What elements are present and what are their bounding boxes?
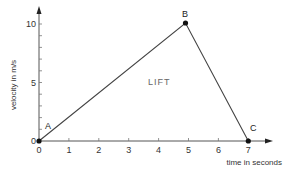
point-c-label: C bbox=[250, 123, 257, 133]
x-tick-7: 7 bbox=[246, 145, 251, 155]
point-b-marker bbox=[183, 20, 188, 25]
y-tick-5: 5 bbox=[31, 78, 36, 88]
point-c-marker bbox=[246, 138, 251, 143]
x-tick-3: 3 bbox=[126, 145, 131, 155]
y-tick-0: 0 bbox=[31, 136, 36, 146]
x-tick-0: 0 bbox=[36, 145, 41, 155]
y-axis-title: velocity in m/s bbox=[9, 60, 18, 110]
y-axis-arrow-icon bbox=[37, 6, 42, 14]
x-axis-title: time in seconds bbox=[226, 158, 282, 167]
lift-annotation: LIFT bbox=[148, 77, 171, 87]
point-a-label: A bbox=[45, 121, 51, 131]
x-tick-5: 5 bbox=[186, 145, 191, 155]
velocity-time-chart: 0 1 2 3 4 5 6 7 0 5 10 velocity in m/s t… bbox=[0, 0, 287, 175]
x-tick-4: 4 bbox=[156, 145, 161, 155]
y-tick-10: 10 bbox=[26, 19, 36, 29]
point-b-label: B bbox=[182, 9, 188, 19]
x-tick-1: 1 bbox=[66, 145, 71, 155]
x-tick-6: 6 bbox=[216, 145, 221, 155]
point-a-marker bbox=[36, 138, 41, 143]
lift-velocity-line bbox=[39, 23, 248, 141]
x-tick-2: 2 bbox=[96, 145, 101, 155]
x-axis-arrow-icon bbox=[265, 139, 273, 144]
